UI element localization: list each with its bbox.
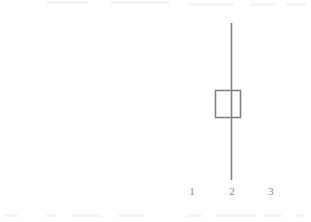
box-group-x2 (216, 23, 241, 180)
x-tick-label-1: 1 (182, 186, 202, 197)
x-tick-label-2: 2 (222, 186, 242, 197)
boxplot-figure: 1 2 3 (0, 0, 311, 222)
box-rect-x2 (216, 91, 241, 118)
x-tick-label-3: 3 (261, 186, 281, 197)
